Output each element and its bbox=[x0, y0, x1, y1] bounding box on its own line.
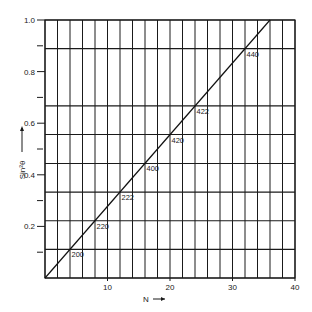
x-tick-label: 40 bbox=[291, 283, 300, 292]
chart: 0.20.40.60.81.01020304020022022240042042… bbox=[0, 0, 312, 312]
y-axis-label: Sin²θ bbox=[18, 160, 27, 179]
reflection-label: 420 bbox=[172, 136, 185, 145]
y-tick-label: 0.2 bbox=[24, 222, 36, 231]
y-tick-label: 1.0 bbox=[24, 16, 36, 25]
x-axis-arrowhead-icon bbox=[161, 297, 165, 301]
x-tick-label: 30 bbox=[228, 283, 237, 292]
reflection-label: 222 bbox=[122, 193, 135, 202]
y-tick-label: 0.8 bbox=[24, 68, 36, 77]
y-tick-label: 0.6 bbox=[24, 119, 36, 128]
reflection-label: 200 bbox=[72, 250, 85, 259]
reflection-label: 400 bbox=[147, 164, 160, 173]
x-axis-label: N bbox=[143, 295, 149, 304]
reflection-label: 422 bbox=[197, 107, 210, 116]
reflection-label: 220 bbox=[97, 222, 110, 231]
x-tick-label: 10 bbox=[103, 283, 112, 292]
reflection-label: 440 bbox=[247, 50, 260, 59]
x-tick-label: 20 bbox=[166, 283, 175, 292]
